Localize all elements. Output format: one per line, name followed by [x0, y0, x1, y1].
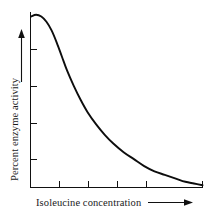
- x-axis-ticks: [60, 181, 203, 188]
- enzyme-activity-curve: [31, 15, 203, 186]
- x-axis-direction-arrow: [148, 199, 193, 206]
- right-arrow-head: [184, 199, 193, 206]
- y-axis-ticks: [31, 50, 38, 160]
- y-axis-title: Percent enzyme activity: [9, 77, 20, 181]
- up-arrow-head: [18, 29, 25, 38]
- y-axis-direction-arrow: [18, 29, 25, 82]
- figure-container: Percent enzyme activity Isoleucine conce…: [0, 0, 218, 217]
- chart-plot: Percent enzyme activity Isoleucine conce…: [0, 0, 218, 217]
- x-axis-title: Isoleucine concentration: [36, 197, 142, 208]
